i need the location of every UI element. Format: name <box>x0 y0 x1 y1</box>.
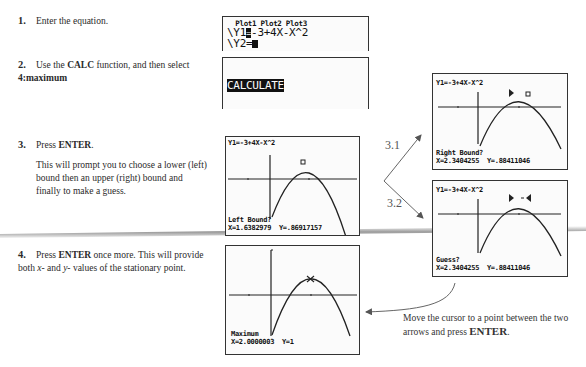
step-4: 4.Press ENTER once more. This will provi… <box>18 248 218 275</box>
calculator-y-editor-screen: Plot1 Plot2 Plot3 \Y1=-3+4X-X^2 \Y2= <box>222 16 369 51</box>
y2-row: \Y2= <box>223 39 368 50</box>
function-label: Y1=-3+4X-X^2 <box>228 140 275 148</box>
y2-label: \Y2= <box>227 37 252 50</box>
step-2: 2.Use the CALC function, and then select… <box>18 58 218 85</box>
branch-label-3-2: 3.2 <box>387 196 402 211</box>
step-1: 1.Enter the equation. <box>18 14 218 28</box>
step-number: 4. <box>18 248 36 261</box>
step-text: - and <box>41 263 63 273</box>
calc-menu-title: CALCULATE <box>227 81 368 92</box>
calculator-guess-screen: Y1=-3+4X-X^2 Guess? X=2.3404255 Y=.88411… <box>432 180 568 277</box>
coordinates-text: X=2.3404255 Y=.88411046 <box>436 265 530 273</box>
step-number: 1. <box>18 14 36 27</box>
enter-keyword: ENTER <box>469 325 507 337</box>
enter-keyword: ENTER <box>58 140 91 150</box>
step-text: Press <box>36 250 58 260</box>
cursor-caption: Move the cursor to a point between the t… <box>403 312 583 339</box>
coordinates-text: X=2.0000003 Y=1 <box>231 339 294 347</box>
coordinates-text: X=2.3404255 Y=.88411046 <box>436 158 530 166</box>
step-text: Enter the equation. <box>36 16 108 26</box>
function-label: Y1=-3+4X-X^2 <box>436 187 483 195</box>
step-text: Use the <box>36 60 67 70</box>
arrow-to-maximum <box>366 283 455 312</box>
cursor-block <box>252 40 258 48</box>
calculator-calc-menu-screen: CALCULATE 1:value 2:zero 3:minimum 4:max… <box>222 57 369 109</box>
caption-text: . <box>507 327 509 337</box>
enter-keyword: ENTER <box>58 250 91 260</box>
calc-menu: CALCULATE 1:value 2:zero 3:minimum 4:max… <box>223 58 368 109</box>
left-bound-marker <box>509 89 514 97</box>
step-text: . <box>91 140 93 150</box>
step-text: function, and then select <box>94 60 189 70</box>
calculator-maximum-screen: Maximum X=2.0000003 Y=1 <box>225 245 360 355</box>
y1-equation: -3+4X-X^2 <box>251 26 308 39</box>
calculator-right-bound-screen: Y1=-3+4X-X^2 Right Bound? X=2.3404255 Y=… <box>432 73 568 170</box>
step-3-note: This will prompt you to choose a lower (… <box>18 159 208 198</box>
maximum-keyword: 4:maximum <box>18 73 67 83</box>
step-3: 3.Press ENTER. This will prompt you to c… <box>18 138 218 198</box>
calc-menu-title-text: CALCULATE <box>227 79 284 92</box>
step-number: 2. <box>18 58 36 71</box>
step-text: - values of the stationary point. <box>67 263 185 273</box>
calculator-left-bound-screen: Y1=-3+4X-X^2 Left Bound? X=1.6382979 Y=.… <box>225 136 360 236</box>
step-number: 3. <box>18 138 36 151</box>
function-label: Y1=-3+4X-X^2 <box>436 80 483 88</box>
branch-label-3-1: 3.1 <box>385 138 400 153</box>
coordinates-text: X=1.6382979 Y=.86917157 <box>228 225 322 233</box>
calc-keyword: CALC <box>67 60 94 70</box>
step-text: Press <box>36 140 58 150</box>
